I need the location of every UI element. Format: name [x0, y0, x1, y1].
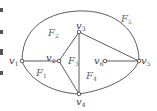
vertex-label-v4: v4 [76, 97, 85, 108]
face-label-f2: F2 [48, 28, 59, 39]
face-label-f1: F1 [36, 68, 47, 79]
face-label-f4: F4 [86, 71, 97, 82]
face-label-f5: F5 [121, 14, 132, 25]
vertex-label-v6: v6 [94, 56, 103, 67]
edge-v3-v5 [79, 32, 139, 61]
vertex-label-v2: v2 [46, 53, 55, 64]
vertex-label-v5: v5 [141, 56, 150, 67]
vertex-v1 [20, 59, 24, 63]
vertex-label-v3: v3 [76, 21, 85, 32]
vertex-v2 [57, 59, 61, 63]
vertex-v6 [103, 59, 107, 63]
vertex-label-v1: v1 [9, 56, 18, 67]
face-label-f3: F3 [68, 56, 79, 67]
